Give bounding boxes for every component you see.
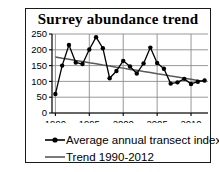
- legend-plain-line-icon: [44, 151, 66, 163]
- legend-label-series-1: Average annual transect index: [66, 134, 219, 146]
- svg-text:50: 50: [36, 91, 47, 102]
- chart-figure: Surrey abundance trend 050100150200250 1…: [0, 0, 219, 172]
- svg-text:2000: 2000: [113, 118, 134, 124]
- legend-item-average-annual-transect-index: Average annual transect index: [44, 131, 214, 148]
- svg-text:150: 150: [31, 60, 47, 71]
- y-axis-labels: 050100150200250: [31, 30, 47, 118]
- chart-title: Surrey abundance trend: [25, 11, 211, 28]
- legend-label-series-2: Trend 1990-2012: [66, 151, 154, 163]
- svg-text:100: 100: [31, 76, 47, 87]
- legend-item-trend-1990-2012: Trend 1990-2012: [44, 148, 214, 165]
- plot-area: 050100150200250 19901995200020052010: [25, 30, 211, 123]
- svg-text:200: 200: [31, 44, 47, 55]
- svg-text:250: 250: [31, 30, 47, 39]
- gridlines: [52, 34, 208, 113]
- svg-text:1995: 1995: [79, 118, 100, 124]
- x-axis-labels: 19901995200020052010: [45, 118, 202, 124]
- axis-lines: [52, 34, 208, 113]
- legend-line-marker-icon: [44, 134, 66, 146]
- series-trend-1990-2012: [55, 57, 204, 81]
- svg-text:2005: 2005: [147, 118, 168, 124]
- chart-legend: Average annual transect index Trend 1990…: [44, 131, 214, 165]
- svg-text:1990: 1990: [45, 118, 66, 124]
- svg-text:2010: 2010: [180, 118, 201, 124]
- chart-plot-svg: 050100150200250 19901995200020052010: [25, 30, 211, 123]
